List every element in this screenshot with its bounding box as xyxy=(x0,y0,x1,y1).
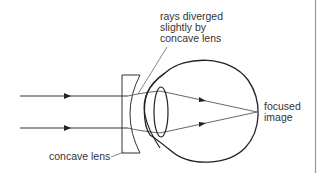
concave-lens-shape xyxy=(122,75,140,153)
incoming-rays xyxy=(20,96,128,128)
arrow-icon xyxy=(64,125,71,131)
label-line: image xyxy=(264,112,301,123)
eye-lens xyxy=(154,87,168,137)
label-focused-image: focused image xyxy=(264,101,301,123)
label-rays-diverged: rays diverged slightly by concave lens xyxy=(160,11,223,44)
leader-line-concave xyxy=(111,152,124,157)
label-line: concave lens xyxy=(160,33,223,44)
arrow-icon xyxy=(199,97,206,102)
arrow-icon xyxy=(199,122,206,127)
label-concave-lens: concave lens xyxy=(49,151,110,162)
diverged-rays xyxy=(128,91,257,133)
arrow-icon xyxy=(64,93,71,99)
